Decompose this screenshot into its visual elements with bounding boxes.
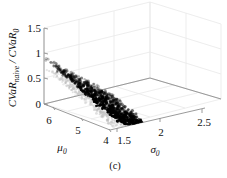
y-tick-label-2_5: 2.5 xyxy=(197,116,211,128)
z-label-numerator-sub: naive xyxy=(12,65,21,82)
x-axis-label: μ0 xyxy=(56,141,67,156)
z-tick-label-1_5: 1.5 xyxy=(27,22,41,34)
x-axis-label-sub: 0 xyxy=(63,147,67,156)
grid-lines xyxy=(44,2,221,126)
z-label-numerator: CVaR xyxy=(6,82,18,107)
y-axis-label: σ0 xyxy=(150,143,159,158)
scatter-plot-3d: 1.5 1 0.5 0 6 5 4 1.5 2 2.5 CVaRnaive / … xyxy=(0,0,227,178)
z-axis-label: CVaRnaive / CVaR0 xyxy=(6,28,21,107)
z-tick-label-0: 0 xyxy=(36,98,42,110)
z-label-separator: / xyxy=(6,57,18,66)
figure-panel: 1.5 1 0.5 0 6 5 4 1.5 2 2.5 CVaRnaive / … xyxy=(0,0,227,178)
z-tick-label-0_5: 0.5 xyxy=(27,72,41,84)
y-tick-label-1_5: 1.5 xyxy=(117,134,131,146)
y-axis-label-sub: 0 xyxy=(156,149,160,158)
z-axis-ticks xyxy=(44,28,48,105)
svg-text:CVaRnaive / CVaR0: CVaRnaive / CVaR0 xyxy=(6,28,21,107)
subplot-caption: (c) xyxy=(109,160,121,172)
x-tick-label-4: 4 xyxy=(103,134,109,146)
z-tick-label-1: 1 xyxy=(36,47,42,59)
x-tick-label-5: 5 xyxy=(75,124,81,136)
z-label-denominator: CVaR xyxy=(6,32,18,57)
z-label-denominator-sub: 0 xyxy=(12,28,21,32)
x-tick-label-6: 6 xyxy=(46,114,52,126)
y-tick-label-2: 2 xyxy=(158,126,164,138)
